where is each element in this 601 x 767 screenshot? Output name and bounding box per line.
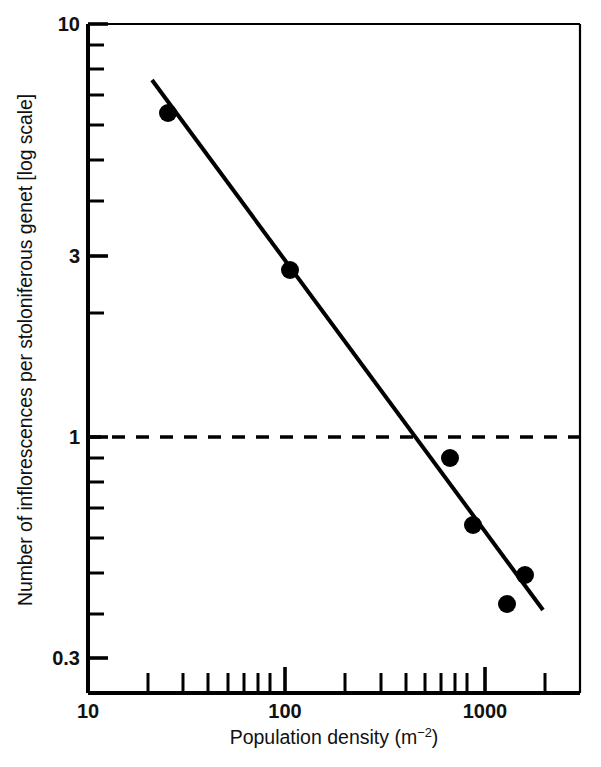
y-axis-ticks: [88, 24, 108, 658]
data-point: [464, 516, 482, 534]
x-axis-ticks: [148, 667, 545, 693]
fitted-regression-line: [152, 80, 543, 610]
data-point: [498, 595, 516, 613]
data-point: [159, 104, 177, 122]
plot-area: [0, 0, 601, 767]
data-points: [159, 104, 534, 613]
axis-frame: [88, 24, 580, 693]
data-point: [516, 566, 534, 584]
figure-container: Number of inflorescences per stolonifero…: [0, 0, 601, 767]
data-point: [281, 261, 299, 279]
data-point: [441, 449, 459, 467]
